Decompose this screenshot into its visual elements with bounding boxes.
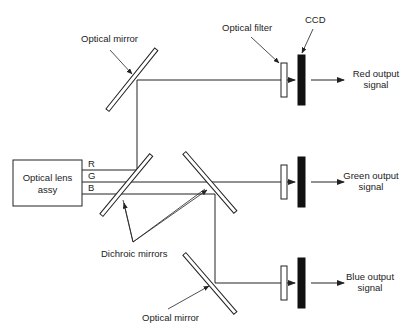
optical-filter-green (281, 165, 287, 199)
ccd-green (298, 157, 305, 207)
blue-output-label-1: Blue output (346, 271, 394, 282)
optical-mirror-bottom-pointer (168, 286, 209, 309)
dichroic-mirror-1 (100, 154, 153, 217)
channel-g-label: G (88, 170, 95, 181)
optical-filter-blue (281, 266, 287, 300)
green-output-label-1: Green output (343, 170, 399, 181)
ccd-red (298, 55, 305, 105)
ccd-pointer (302, 29, 313, 53)
blue-path (82, 194, 295, 283)
optical-filter-pointer (251, 37, 279, 63)
red-output-label-1: Red output (353, 68, 400, 79)
dichroic-pointer-lines (123, 189, 205, 242)
lens-label-1: Optical lens (23, 172, 73, 183)
optical-mirror-top-label: Optical mirror (81, 33, 138, 44)
green-output-label-2: signal (359, 181, 384, 192)
channel-b-label: B (88, 182, 94, 193)
dichroic-pointer-2 (133, 190, 207, 242)
dichroic-mirrors-label: Dichroic mirrors (101, 248, 168, 259)
lens-label-2: assy (38, 184, 58, 195)
optical-filter-red (281, 63, 287, 97)
optical-filter-label: Optical filter (222, 22, 272, 33)
red-output-label-2: signal (364, 79, 389, 90)
optical-mirror-top-pointer (110, 50, 132, 74)
ccd-label: CCD (305, 14, 326, 25)
blue-output-label-2: signal (358, 282, 383, 293)
ccd-blue (298, 258, 305, 308)
channel-r-label: R (88, 158, 95, 169)
optical-lens-assy: Optical lens assy (13, 160, 82, 206)
optical-mirror-bottom-label: Optical mirror (142, 312, 199, 323)
dichroic-pointer-1 (124, 203, 133, 242)
optical-diagram: Optical lens assy R G B (0, 0, 407, 334)
